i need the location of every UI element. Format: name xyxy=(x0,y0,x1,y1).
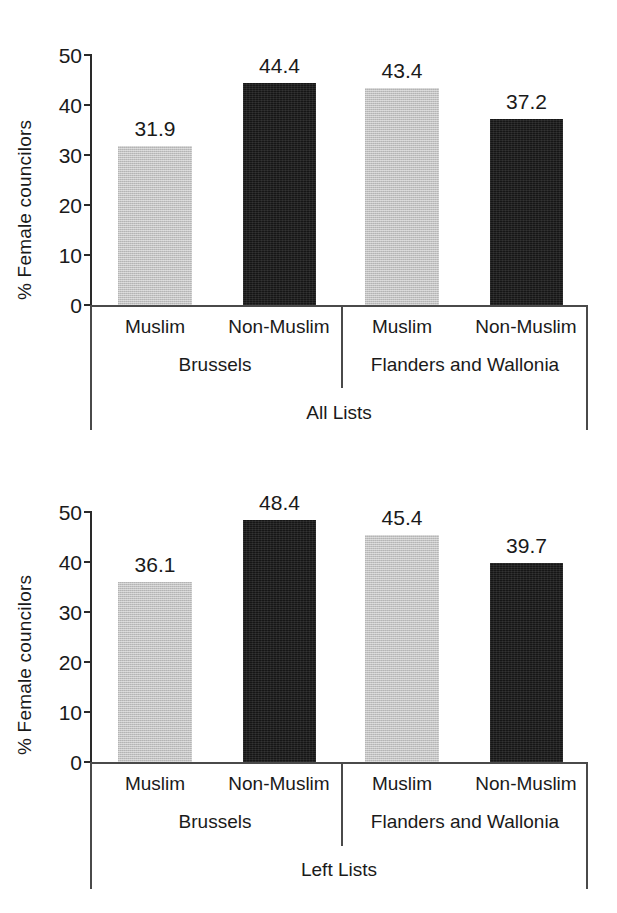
y-tick-label: 0 xyxy=(48,295,82,316)
bar-brussels-non-muslim xyxy=(243,83,316,305)
bar-value-label: 45.4 xyxy=(365,507,439,528)
x-axis-line xyxy=(90,762,588,764)
panel-title-left-lists: Left Lists xyxy=(90,860,588,879)
x-category-label-brussels-muslim: Muslim xyxy=(105,774,205,793)
bar-value-label: 36.1 xyxy=(118,554,192,575)
group-divider-rule xyxy=(341,305,343,388)
bar-value-label: 48.4 xyxy=(243,492,316,513)
y-axis-line xyxy=(90,54,92,306)
y-tick-label: 30 xyxy=(48,602,82,623)
y-tick-label: 20 xyxy=(48,195,82,216)
y-tick-mark xyxy=(84,511,91,513)
x-category-label-brussels-muslim: Muslim xyxy=(105,317,205,336)
plot-area-left-lists: % Female councilors 50 40 30 20 10 0 36.… xyxy=(0,455,617,913)
y-axis-title: % Female councilors xyxy=(14,575,36,755)
y-axis-line xyxy=(90,511,92,763)
y-tick-label: 30 xyxy=(48,145,82,166)
y-tick-mark xyxy=(84,104,91,106)
y-tick-mark xyxy=(84,154,91,156)
bar-brussels-muslim xyxy=(118,146,192,305)
bar-flanders-wallonia-muslim xyxy=(365,88,439,305)
y-tick-label: 40 xyxy=(48,552,82,573)
bar-value-label: 37.2 xyxy=(490,91,563,112)
bar-flanders-wallonia-non-muslim xyxy=(490,119,563,305)
x-category-label-flanders-non-muslim: Non-Muslim xyxy=(461,774,591,793)
x-group-label-brussels: Brussels xyxy=(90,812,340,831)
y-tick-mark xyxy=(84,254,91,256)
y-tick-label: 50 xyxy=(48,45,82,66)
x-group-label-brussels: Brussels xyxy=(90,355,340,374)
y-tick-mark xyxy=(84,204,91,206)
y-tick-mark xyxy=(84,561,91,563)
bar-value-label: 43.4 xyxy=(365,60,439,81)
group-divider-rule xyxy=(341,762,343,846)
bar-flanders-wallonia-muslim xyxy=(365,535,439,762)
y-tick-label: 10 xyxy=(48,702,82,723)
panel-title-all-lists: All Lists xyxy=(90,403,588,422)
chart-panel-all-lists: % Female councilors 50 40 30 20 10 0 31.… xyxy=(0,0,617,455)
y-axis-title: % Female councilors xyxy=(14,120,36,300)
bar-value-label: 31.9 xyxy=(118,118,192,139)
y-tick-mark xyxy=(84,661,91,663)
bar-brussels-muslim xyxy=(118,582,192,762)
y-tick-label: 20 xyxy=(48,652,82,673)
x-axis-line xyxy=(90,305,588,307)
y-tick-mark xyxy=(84,711,91,713)
x-category-label-flanders-muslim: Muslim xyxy=(352,317,452,336)
plot-area-all-lists: % Female councilors 50 40 30 20 10 0 31.… xyxy=(0,0,617,455)
x-group-label-flanders-wallonia: Flanders and Wallonia xyxy=(342,355,588,374)
x-group-label-flanders-wallonia: Flanders and Wallonia xyxy=(342,812,588,831)
x-category-label-brussels-non-muslim: Non-Muslim xyxy=(214,317,344,336)
x-category-label-flanders-non-muslim: Non-Muslim xyxy=(461,317,591,336)
y-tick-mark xyxy=(84,611,91,613)
x-category-label-brussels-non-muslim: Non-Muslim xyxy=(214,774,344,793)
bar-flanders-wallonia-non-muslim xyxy=(490,563,563,762)
bar-value-label: 39.7 xyxy=(490,535,563,556)
bar-brussels-non-muslim xyxy=(243,520,316,762)
y-tick-label: 50 xyxy=(48,502,82,523)
y-tick-label: 0 xyxy=(48,752,82,773)
y-tick-mark xyxy=(84,54,91,56)
chart-panel-left-lists: % Female councilors 50 40 30 20 10 0 36.… xyxy=(0,455,617,913)
bar-value-label: 44.4 xyxy=(243,55,316,76)
x-category-label-flanders-muslim: Muslim xyxy=(352,774,452,793)
y-tick-label: 40 xyxy=(48,95,82,116)
y-tick-label: 10 xyxy=(48,245,82,266)
